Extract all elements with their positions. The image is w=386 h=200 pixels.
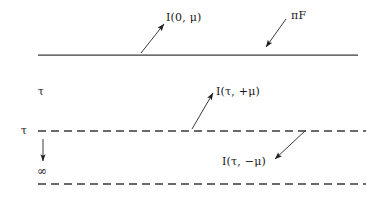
- arrow-intensity-surface-out: [141, 24, 164, 53]
- label-tau-level: τ: [21, 125, 27, 136]
- label-tau-upper: τ: [38, 86, 44, 97]
- label-intensity-down: I(τ, −μ): [222, 156, 266, 167]
- label-tau-infinity: ∞: [37, 165, 47, 177]
- label-intensity-up: I(τ, +μ): [216, 86, 260, 97]
- arrow-incident-flux: [266, 19, 286, 47]
- arrow-intensity-down: [275, 130, 306, 159]
- arrow-intensity-up: [192, 93, 213, 129]
- label-incident-flux: πF: [291, 10, 306, 21]
- radiative-transfer-diagram: I(0, μ) πF I(τ, +μ) I(τ, −μ) τ τ ∞: [0, 0, 386, 200]
- diagram-vector-layer: [0, 0, 386, 200]
- label-intensity-surface-out: I(0, μ): [166, 12, 201, 23]
